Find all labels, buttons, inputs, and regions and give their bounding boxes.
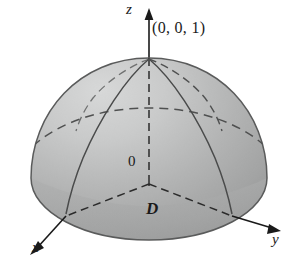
x-axis-label: x <box>32 240 39 255</box>
z-axis-label: z <box>126 2 132 17</box>
base-region-label: D <box>146 200 158 217</box>
origin-label: 0 <box>128 154 136 169</box>
apex-point-label: (0, 0, 1) <box>152 20 205 36</box>
figure-container: z (0, 0, 1) 0 D x y <box>0 0 302 278</box>
y-axis-label: y <box>272 232 279 247</box>
dome-diagram <box>0 0 302 278</box>
